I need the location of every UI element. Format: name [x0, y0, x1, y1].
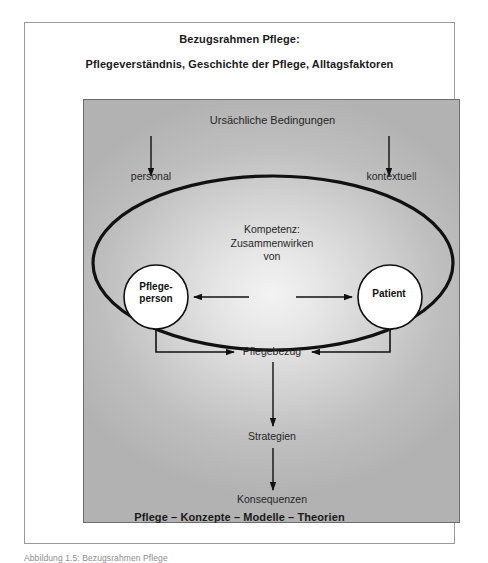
- label-node-pflegeperson-line-2: person: [121, 293, 191, 305]
- figure-external-caption: Abbildung 1.5: Bezugsrahmen Pflege: [24, 553, 168, 563]
- label-competence: Kompetenz: Zusammenwirken von: [192, 223, 352, 264]
- label-competence-line-3: von: [192, 250, 352, 264]
- diagram-graphics: [84, 100, 460, 523]
- label-condition-personal: personal: [96, 170, 206, 183]
- label-strategien: Strategien: [202, 430, 342, 443]
- figure-title-line-1: Bezugsrahmen Pflege:: [25, 33, 454, 45]
- label-competence-line-1: Kompetenz:: [192, 223, 352, 237]
- figure-heading-block: Bezugsrahmen Pflege: Pflegeverständnis, …: [25, 33, 454, 70]
- figure-footer-caption: Pflege – Konzepte – Modelle – Theorien: [25, 511, 454, 523]
- diagram-panel: Ursächliche Bedingungen personal kontext…: [83, 99, 460, 523]
- label-condition-kontextuell: kontextuell: [334, 170, 449, 183]
- label-konsequenzen: Konsequenzen: [192, 493, 352, 506]
- label-pflegebezug: Pflegebezug: [202, 345, 342, 358]
- figure-outer-frame: Bezugsrahmen Pflege: Pflegeverständnis, …: [24, 22, 455, 544]
- figure-title-line-2: Pflegeverständnis, Geschichte der Pflege…: [25, 58, 454, 70]
- label-node-patient: Patient: [354, 288, 424, 300]
- figure-root: Bezugsrahmen Pflege: Pflegeverständnis, …: [0, 0, 488, 563]
- label-causal-conditions: Ursächliche Bedingungen: [84, 114, 460, 127]
- label-competence-line-2: Zusammenwirken: [192, 237, 352, 251]
- label-node-pflegeperson-line-1: Pflege-: [121, 281, 191, 293]
- label-node-pflegeperson: Pflege- person: [121, 281, 191, 305]
